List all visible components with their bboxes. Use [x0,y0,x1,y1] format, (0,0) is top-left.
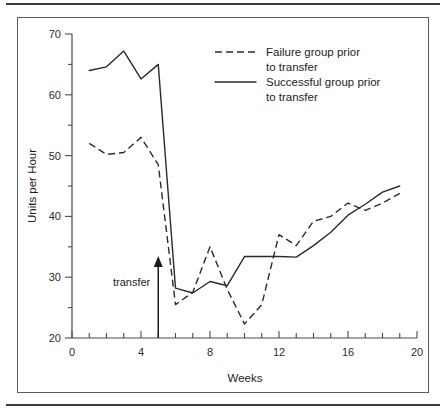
x-axis-title: Weeks [228,372,263,384]
y-tick-marks [65,34,72,338]
y-tick-label: 50 [49,150,61,162]
x-tick-label: 20 [411,346,423,358]
legend-label-successful-line1: Successful group prior [266,76,381,88]
legend-label-failure-line2: to transfer [266,61,318,73]
y-axis-title: Units per Hour [26,149,38,223]
transfer-label: transfer [113,276,151,288]
series-line-failure [89,137,400,324]
y-tick-label: 40 [49,210,61,222]
x-tick-labels: 048121620 [69,346,423,358]
x-tick-label: 16 [342,346,354,358]
x-tick-label: 0 [69,346,75,358]
y-tick-label: 30 [49,271,61,283]
x-tick-label: 4 [138,346,144,358]
x-tick-label: 12 [273,346,285,358]
y-tick-label: 70 [49,28,61,40]
x-tick-marks [72,331,417,338]
transfer-annotation: transfer [113,256,163,338]
x-tick-label: 8 [207,346,213,358]
x-axis-group: 048121620 Weeks [69,331,423,384]
transfer-arrow-head [154,256,163,267]
line-chart: 203040506070 Units per Hour 048121620 We… [0,0,446,414]
legend-label-failure-line1: Failure group prior [266,46,360,58]
y-tick-label: 60 [49,89,61,101]
legend-label-successful-line2: to transfer [266,91,318,103]
y-axis-group: 203040506070 Units per Hour [26,28,72,344]
figure-root: 203040506070 Units per Hour 048121620 We… [0,0,446,414]
legend: Failure group prior to transfer Successf… [215,46,381,103]
y-tick-label: 20 [49,332,61,344]
y-tick-labels: 203040506070 [49,28,61,344]
